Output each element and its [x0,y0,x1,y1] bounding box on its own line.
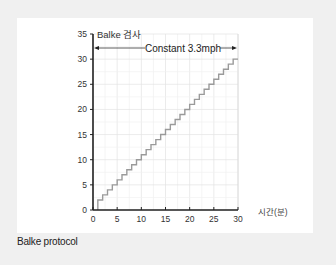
svg-text:10: 10 [137,214,147,224]
svg-text:35: 35 [78,29,88,39]
x-axis-label: 시간(분) [258,207,288,217]
svg-text:30: 30 [233,214,243,224]
svg-text:20: 20 [78,104,88,114]
constant-speed-label: Constant 3.3mph [145,43,221,54]
svg-text:30: 30 [78,54,88,64]
svg-text:15: 15 [161,214,171,224]
svg-text:20: 20 [185,214,195,224]
figure-caption: Balke protocol [17,236,78,247]
svg-text:10: 10 [78,155,88,165]
svg-text:0: 0 [82,205,87,215]
chart-title: Balke 검사 [97,29,141,40]
svg-text:25: 25 [209,214,219,224]
y-axis-ticks: 05101520253035 [78,29,93,215]
svg-text:25: 25 [78,79,88,89]
svg-text:5: 5 [115,214,120,224]
svg-text:15: 15 [78,130,88,140]
svg-text:5: 5 [82,180,87,190]
grid-lines [93,34,238,210]
chart-panel: 05101520253035 051015202530 Balke 검사 Con… [17,18,313,233]
step-chart: 05101520253035 051015202530 Balke 검사 Con… [17,18,313,233]
constant-speed-annotation: Constant 3.3mph [94,43,237,54]
svg-text:0: 0 [91,214,96,224]
